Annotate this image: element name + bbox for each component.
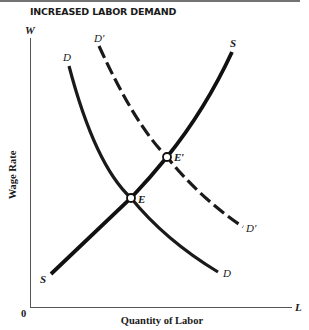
demand-curve-d (69, 66, 218, 272)
chart-figure: INCREASED LABOR DEMAND W L 0 Quantity of… (0, 0, 309, 330)
equilibrium-e-prime-marker (163, 153, 171, 161)
equilibrium-e-marker (127, 194, 135, 202)
demand-prime-label-top: D′ (93, 32, 105, 44)
demand-prime-label-bottom: D′ (245, 222, 257, 234)
x-axis-letter: L (294, 301, 302, 313)
demand-label-top: D (62, 51, 71, 63)
chart-title: INCREASED LABOR DEMAND (30, 6, 176, 17)
y-axis-letter: W (25, 24, 36, 36)
supply-curve-s (51, 52, 232, 274)
demand-label-bottom: D (222, 267, 231, 279)
supply-label-top: S (230, 37, 236, 49)
y-axis-title: Wage Rate (7, 150, 18, 199)
origin-label: 0 (21, 308, 26, 319)
equilibrium-e-prime-label: E′ (173, 151, 184, 163)
equilibrium-e-label: E (137, 193, 145, 205)
supply-label-bottom: S (40, 273, 46, 285)
x-axis-title: Quantity of Labor (121, 315, 204, 326)
